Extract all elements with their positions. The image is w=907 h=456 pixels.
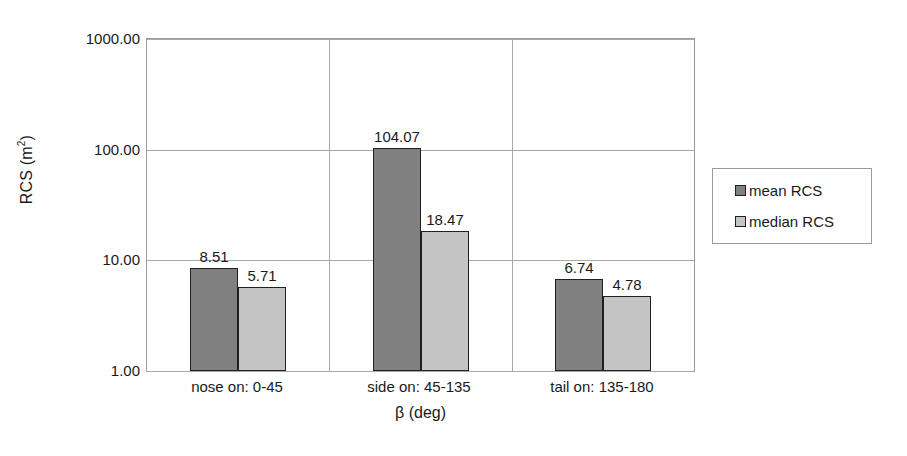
bar-value-label: 104.07 — [363, 129, 431, 145]
legend-item-mean-rcs[interactable]: mean RCS — [735, 182, 871, 199]
y-axis-tick-label: 10.00 — [44, 252, 140, 267]
bar-median-1[interactable] — [421, 231, 469, 371]
gridline-category-separator — [329, 39, 330, 371]
y-axis-title: RCS (m2) — [16, 100, 35, 240]
bar-mean-1[interactable] — [373, 148, 421, 371]
gridline-horizontal — [147, 39, 694, 40]
y-axis-title-text: RCS (m — [18, 146, 35, 204]
y-axis-tick-label: 1.00 — [44, 363, 140, 378]
legend-item-median-rcs[interactable]: median RCS — [735, 213, 871, 230]
legend-swatch-icon-mean — [735, 185, 746, 196]
y-axis-title-exponent: 2 — [16, 141, 27, 147]
bar-chart: RCS (m2) 1000.00100.0010.001.00 8.51104.… — [0, 0, 907, 456]
bar-value-label: 4.78 — [593, 277, 661, 293]
x-axis-tick-label: tail on: 135-180 — [511, 378, 693, 395]
x-axis-tick-label: side on: 45-135 — [328, 378, 510, 395]
x-axis-title: β (deg) — [146, 404, 695, 422]
legend-label-median: median RCS — [749, 213, 834, 230]
bar-value-label: 8.51 — [180, 249, 248, 265]
y-axis-tick-label: 100.00 — [44, 142, 140, 157]
legend-swatch-icon-median — [735, 216, 746, 227]
x-axis-tick-labels: nose on: 0-45side on: 45-135tail on: 135… — [146, 378, 695, 402]
bar-value-label: 5.71 — [228, 268, 296, 284]
bar-median-0[interactable] — [238, 287, 286, 371]
y-axis-tick-labels: 1000.00100.0010.001.00 — [44, 0, 140, 456]
gridline-horizontal — [147, 371, 694, 372]
plot-area: 8.51104.076.745.7118.474.78 — [146, 38, 695, 372]
legend-label-mean: mean RCS — [749, 182, 822, 199]
bar-median-2[interactable] — [603, 296, 651, 371]
y-axis-title-paren: ) — [18, 135, 35, 141]
y-axis-tick-label: 1000.00 — [44, 31, 140, 46]
bar-value-label: 18.47 — [411, 212, 479, 228]
legend: mean RCS median RCS — [712, 168, 872, 244]
bar-value-label: 6.74 — [545, 260, 613, 276]
x-axis-tick-label: nose on: 0-45 — [146, 378, 328, 395]
gridline-category-separator — [512, 39, 513, 371]
